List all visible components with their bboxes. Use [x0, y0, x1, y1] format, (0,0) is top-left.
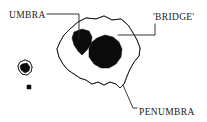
label-umbra: UMBRA: [9, 10, 46, 20]
main-sunspot-group: [57, 16, 140, 88]
leader-line-penumbra: [123, 85, 137, 108]
figure-canvas: UMBRA 'BRIDGE' PENUMBRA: [0, 0, 207, 122]
label-bridge: 'BRIDGE': [153, 12, 195, 22]
label-penumbra: PENUMBRA: [139, 107, 195, 117]
secondary-sunspot-group: [18, 60, 32, 75]
pore-spot: [27, 85, 31, 89]
sunspot-figure: UMBRA 'BRIDGE' PENUMBRA: [0, 0, 207, 122]
